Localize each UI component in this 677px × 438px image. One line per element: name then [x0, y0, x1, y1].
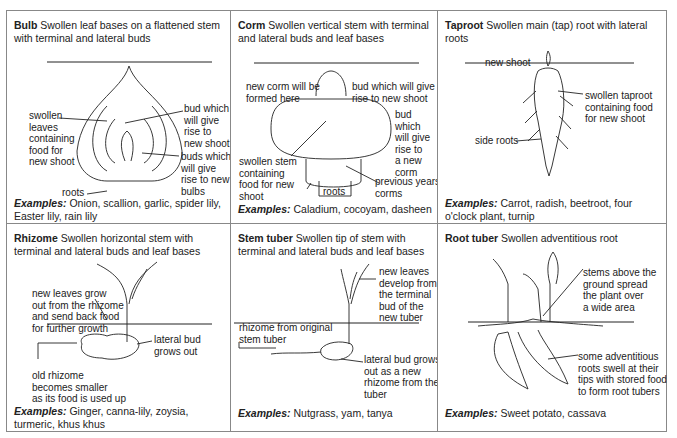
- label-side-roots: side roots: [475, 135, 518, 147]
- label-swollen-leaves: swollen leaves containing food for new s…: [29, 110, 75, 168]
- cell-rhizome: Rhizome Swollen horizontal stem with ter…: [7, 224, 230, 432]
- label-bud-shoot: bud which will give rise to new shoot: [352, 81, 435, 104]
- label-swollen-taproot: swollen taproot containing food for new …: [585, 90, 653, 125]
- bulb-examples: Examples: Onion, scallion, garlic, spide…: [14, 197, 224, 223]
- label-new-corm: new corm will be formed here: [246, 81, 320, 104]
- label-rhizome-original: rhizome from original stem tuber: [239, 322, 332, 345]
- label-new-leaves: new leaves develop from the terminal bud…: [379, 266, 437, 324]
- label-bud: bud which will give rise to new shoot: [184, 103, 230, 149]
- taproot-examples: Examples: Carrot, radish, beetroot, four…: [445, 197, 661, 223]
- label-lateral-bud: lateral bud grows out as a new rhizome f…: [364, 354, 437, 400]
- cell-taproot: Taproot Swollen main (tap) root with lat…: [438, 11, 667, 223]
- label-new-leaves: new leaves grow out from the rhizome and…: [32, 288, 124, 334]
- storage-organs-table: Bulb Swollen leaf bases on a flattened s…: [6, 10, 667, 432]
- label-lateral-bud: lateral bud grows out: [154, 334, 201, 357]
- label-new-shoot: new shoot: [485, 57, 531, 69]
- label-swollen-stem: swollen stem containing food for new sho…: [239, 156, 297, 202]
- label-buds: buds which will give rise to new bulbs: [181, 151, 230, 197]
- label-adventitious: some adventitious roots swell at their t…: [578, 351, 667, 397]
- root-tuber-examples: Examples: Sweet potato, cassava: [445, 407, 661, 420]
- label-old-rhizome: old rhizome becomes smaller as its food …: [32, 370, 126, 405]
- stem-tuber-examples: Examples: Nutgrass, yam, tanya: [238, 407, 433, 420]
- corm-examples: Examples: Caladium, cocoyam, dasheen: [238, 203, 433, 216]
- root-tuber-diagram: [438, 224, 667, 432]
- label-stems-above: stems above the ground spread the plant …: [583, 267, 656, 313]
- cell-root-tuber: Root tuber Swollen adventitious root ste…: [438, 224, 667, 432]
- cell-bulb: Bulb Swollen leaf bases on a flattened s…: [7, 11, 230, 223]
- label-roots: roots: [323, 186, 345, 198]
- rhizome-examples: Examples: Ginger, canna-lily, zoysia, tu…: [14, 405, 224, 431]
- label-previous-corms: previous years' corms: [375, 176, 437, 199]
- cell-corm: Corm Swollen vertical stem with terminal…: [231, 11, 437, 223]
- label-bud-corm: bud which will give rise to a new corm: [395, 109, 430, 178]
- cell-stem-tuber: Stem tuber Swollen tip of stem with term…: [231, 224, 437, 432]
